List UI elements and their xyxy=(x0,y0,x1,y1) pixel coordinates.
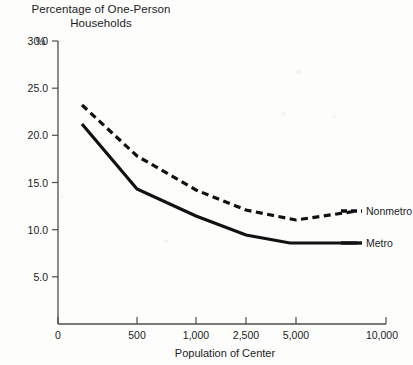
x-tick-label-1000: 1,000 xyxy=(183,329,209,341)
series-line-nonmetro xyxy=(82,105,357,220)
y-tick-label-15: 15.0 xyxy=(28,177,49,189)
x-tick-label-5000: 5,000 xyxy=(283,329,309,341)
y-tick-label-20: 20.0 xyxy=(28,129,49,141)
series-line-metro xyxy=(82,124,357,243)
chart-canvas: 30.0 25.0 20.0 15.0 10.0 5.0 % 0 500 1,0… xyxy=(0,0,413,365)
y-axis: 30.0 25.0 20.0 15.0 10.0 5.0 % xyxy=(28,35,58,324)
y-axis-percent-symbol: % xyxy=(36,35,45,47)
x-tick-label-0: 0 xyxy=(55,329,61,341)
legend-label-nonmetro: Nonmetro xyxy=(366,205,412,217)
x-tick-label-10000: 10,000 xyxy=(366,329,398,341)
legend-label-metro: Metro xyxy=(366,237,393,249)
y-tick-label-25: 25.0 xyxy=(28,82,49,94)
x-axis: 0 500 1,000 2,500 5,000 10,000 Populatio… xyxy=(55,317,398,359)
legend: Nonmetro Metro xyxy=(341,205,412,249)
y-tick-label-5: 5.0 xyxy=(33,271,48,283)
y-tick-label-10: 10.0 xyxy=(28,224,49,236)
x-tick-label-2500: 2,500 xyxy=(233,329,259,341)
x-tick-label-500: 500 xyxy=(128,329,146,341)
chart-figure: Percentage of One-Person Households 30.0… xyxy=(0,0,413,365)
x-axis-title: Population of Center xyxy=(175,347,276,359)
